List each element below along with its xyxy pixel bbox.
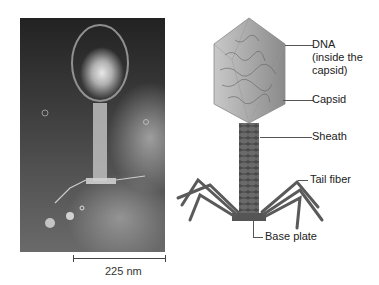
label-capsid: Capsid (312, 93, 346, 106)
dna-leader-line (285, 45, 313, 46)
base-plate-leader-line (253, 221, 254, 237)
capsid-leader-line (283, 100, 313, 101)
label-dna: DNA (312, 38, 335, 51)
sheath-shape (239, 123, 259, 215)
label-tail-fiber: Tail fiber (310, 173, 351, 186)
tail-fiber-leader-line (298, 180, 308, 181)
capsid-shape (214, 18, 285, 123)
label-base-plate: Base plate (265, 230, 317, 243)
label-sheath: Sheath (312, 130, 347, 143)
label-dna-note-2: capsid) (312, 64, 347, 77)
sheath-leader-line (260, 137, 312, 138)
base-plate-leader-horizontal (253, 237, 263, 238)
label-dna-note-1: (inside the (312, 51, 363, 64)
